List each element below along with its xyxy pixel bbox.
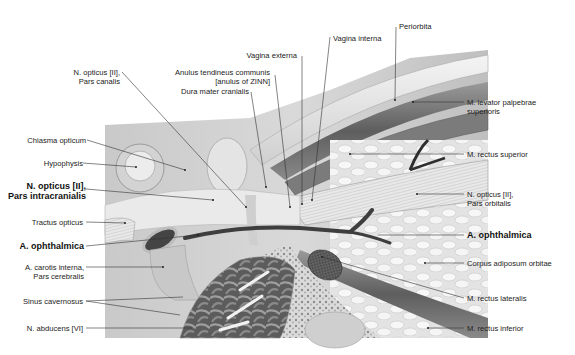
label-m-levator-palpebrae-title: M. levator palpebrae: [467, 98, 536, 107]
label-a-ophthalmica-left: A. ophthalmica: [19, 241, 84, 251]
label-anulus-tendineus-title: Anulus tendineus communis: [175, 68, 270, 77]
label-vagina-interna: Vagina interna: [333, 34, 381, 43]
label-m-levator-palpebrae-sub: superioris: [467, 107, 536, 116]
label-n-opticus-orbitalis-title: N. opticus [II],: [467, 190, 513, 199]
label-m-rectus-lateralis: M. rectus lateralis: [467, 294, 527, 303]
label-tractus-opticus: Tractus opticus: [32, 218, 83, 227]
label-chiasma-opticum: Chiasma opticum: [27, 136, 86, 145]
label-anulus-tendineus: Anulus tendineus communis [anulus of ZIN…: [175, 68, 270, 86]
label-corpus-adiposum-orbitae: Corpus adiposum orbitae: [467, 259, 552, 268]
figure: Chiasma opticum Hypophysis N. opticus [I…: [0, 0, 575, 355]
label-sinus-cavernosus: Sinus cavernosus: [23, 297, 83, 306]
label-n-opticus-intracranialis-title: N. opticus [II],: [8, 181, 86, 191]
label-a-carotis-interna-title: A. carotis interna,: [25, 263, 84, 272]
label-vagina-externa: Vagina externa: [246, 51, 297, 60]
label-dura-mater-cranialis: Dura mater cranialis: [181, 87, 249, 96]
label-anulus-tendineus-sub: [anulus of ZINN]: [175, 77, 270, 86]
label-n-abducens: N. abducens [VI]: [27, 324, 83, 333]
label-n-opticus-orbitalis: N. opticus [II], Pars orbitalis: [467, 190, 513, 208]
label-m-levator-palpebrae: M. levator palpebrae superioris: [467, 98, 536, 116]
label-n-opticus-canalis-title: N. opticus [II],: [74, 68, 120, 77]
label-a-carotis-interna: A. carotis interna, Pars cerebralis: [25, 263, 84, 281]
label-n-opticus-canalis: N. opticus [II], Pars canalis: [74, 68, 120, 86]
label-n-opticus-canalis-sub: Pars canalis: [74, 77, 120, 86]
label-m-rectus-inferior: M. rectus inferior: [467, 324, 524, 333]
label-hypophysis: Hypophysis: [44, 159, 83, 168]
label-a-carotis-interna-sub: Pars cerebralis: [25, 272, 84, 281]
label-a-ophthalmica-right: A. ophthalmica: [467, 230, 532, 240]
label-m-rectus-superior: M. rectus superior: [467, 150, 528, 159]
label-periorbita: Periorbita: [399, 22, 432, 31]
label-n-opticus-orbitalis-sub: Pars orbitalis: [467, 199, 513, 208]
label-n-opticus-intracranialis-sub: Pars intracranialis: [8, 191, 86, 201]
label-n-opticus-intracranialis: N. opticus [II], Pars intracranialis: [8, 181, 86, 201]
